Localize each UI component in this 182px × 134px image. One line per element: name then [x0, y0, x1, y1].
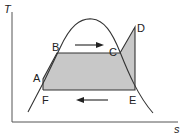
point-label-f: F	[42, 94, 49, 106]
cycle-shaded-area	[43, 27, 135, 90]
y-axis-label: T	[4, 3, 12, 15]
point-label-b: B	[52, 41, 59, 53]
arrow-left-icon	[76, 97, 108, 103]
ts-diagram-svg: T s A B C D E F	[0, 0, 182, 134]
point-label-a: A	[33, 72, 41, 84]
ts-diagram: T s A B C D E F	[0, 0, 182, 134]
arrow-right-icon	[75, 42, 104, 48]
point-label-c: C	[109, 46, 117, 58]
point-label-d: D	[137, 22, 145, 34]
point-label-e: E	[129, 94, 136, 106]
x-axis-label: s	[174, 123, 180, 134]
